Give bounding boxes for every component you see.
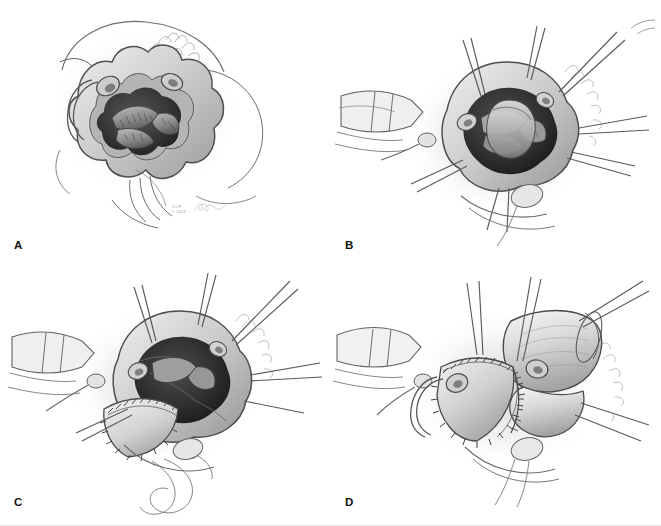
panel-a: CCF © 2014 A [0, 0, 330, 263]
panel-label-a: A [14, 240, 23, 252]
illustration-a [0, 0, 330, 263]
panel-c: CCF © 2014 C [0, 263, 330, 526]
artist-signature-a [192, 200, 226, 214]
panel-d: CCF © 2014 D [331, 263, 661, 526]
illustration-c [0, 263, 330, 526]
panel-label-b: B [345, 240, 354, 252]
panel-b: CCF © 2014 B [331, 0, 661, 263]
panel-label-c: C [14, 497, 23, 509]
panel-label-d: D [345, 497, 354, 509]
figure-grid: CCF © 2014 A [0, 0, 661, 526]
illustration-d [331, 263, 661, 526]
illustration-b [331, 0, 661, 263]
